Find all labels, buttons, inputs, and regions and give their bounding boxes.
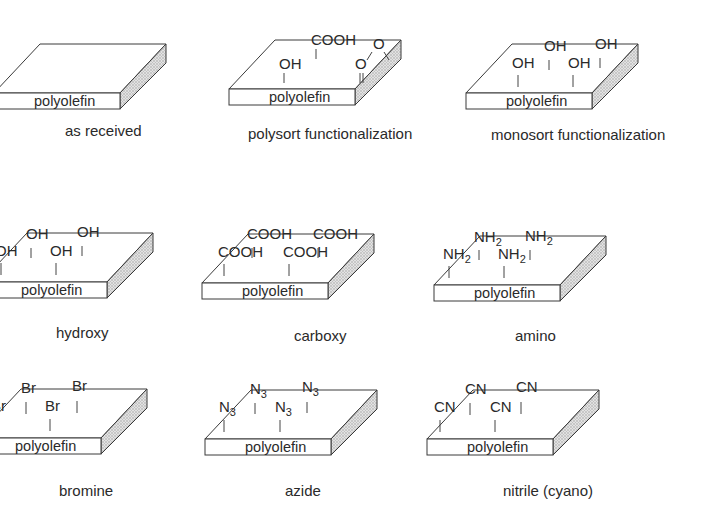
svg-text:COOH: COOH bbox=[311, 31, 356, 48]
svg-text:CN: CN bbox=[516, 378, 538, 395]
svg-text:OH: OH bbox=[0, 242, 18, 259]
panel-caption: nitrile (cyano) bbox=[503, 482, 593, 499]
panel-as-received: polyolefinas received bbox=[0, 44, 166, 139]
substrate-label: polyolefin bbox=[21, 282, 82, 298]
panel-caption: bromine bbox=[59, 482, 113, 499]
substrate-label: polyolefin bbox=[15, 438, 76, 454]
substrate-label: polyolefin bbox=[34, 93, 95, 109]
svg-text:CN: CN bbox=[465, 380, 487, 397]
panel-amino: polyolefinNH2NH2NH2NH2amino bbox=[434, 227, 606, 344]
svg-text:COOH: COOH bbox=[247, 225, 292, 242]
svg-text:CN: CN bbox=[490, 398, 512, 415]
svg-text:OH: OH bbox=[568, 54, 591, 71]
svg-text:COOH: COOH bbox=[218, 243, 263, 260]
panel-nitrile: polyolefinCNCNCNCNnitrile (cyano) bbox=[427, 378, 599, 499]
svg-text:OH: OH bbox=[77, 223, 100, 240]
substrate-label: polyolefin bbox=[242, 283, 303, 299]
svg-text:CN: CN bbox=[434, 398, 456, 415]
svg-text:Br: Br bbox=[72, 377, 87, 394]
svg-text:COOH: COOH bbox=[283, 243, 328, 260]
svg-text:OH: OH bbox=[26, 225, 49, 242]
panel-caption: azide bbox=[285, 482, 321, 499]
panel-caption: carboxy bbox=[294, 327, 347, 344]
svg-text:O: O bbox=[373, 35, 385, 52]
svg-text:O: O bbox=[355, 55, 367, 72]
svg-text:Br: Br bbox=[21, 379, 36, 396]
svg-text:Br: Br bbox=[45, 397, 60, 414]
panel-carboxy: polyolefinCOOHCOOHCOOHCOOHcarboxy bbox=[202, 225, 374, 344]
svg-text:OH: OH bbox=[595, 35, 618, 52]
panel-caption: hydroxy bbox=[56, 324, 109, 341]
panel-monosort: polyolefinOHOHOHOHmonosort functionaliza… bbox=[466, 35, 665, 143]
svg-text:COOH: COOH bbox=[313, 225, 358, 242]
panel-polysort: polyolefinOHCOOHOOpolysort functionaliza… bbox=[229, 31, 412, 142]
panel-caption: as received bbox=[65, 122, 142, 139]
svg-text:OH: OH bbox=[279, 55, 302, 72]
substrate-label: polyolefin bbox=[245, 439, 306, 455]
svg-text:OH: OH bbox=[512, 54, 535, 71]
substrate-label: polyolefin bbox=[467, 439, 528, 455]
substrate-label: polyolefin bbox=[474, 285, 535, 301]
panel-hydroxy: polyolefinOHOHOHOHhydroxy bbox=[0, 223, 153, 341]
panel-caption: monosort functionalization bbox=[491, 126, 665, 143]
panel-caption: amino bbox=[515, 327, 556, 344]
panel-caption: polysort functionalization bbox=[248, 125, 412, 142]
substrate-label: polyolefin bbox=[506, 93, 567, 109]
svg-text:OH: OH bbox=[544, 37, 567, 54]
panel-bromine: polyolefinBrBrBrBrbromine bbox=[0, 377, 147, 499]
svg-text:Br: Br bbox=[0, 397, 6, 414]
functionalization-diagram: polyolefinas receivedpolyolefinOHCOOHOOp… bbox=[0, 0, 721, 531]
substrate-label: polyolefin bbox=[269, 89, 330, 105]
svg-text:OH: OH bbox=[50, 242, 73, 259]
panel-azide: polyolefinN3N3N3N3azide bbox=[205, 378, 377, 499]
